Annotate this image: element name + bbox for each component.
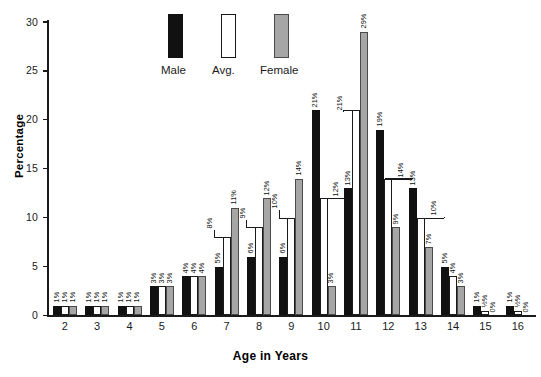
bar-male-age-10 (312, 110, 320, 315)
bar-male-age-2 (53, 306, 61, 316)
bar-value-label: 12% (262, 180, 269, 195)
bar-female-age-2 (69, 306, 77, 316)
bar-avg-age-2 (61, 306, 69, 316)
bar-value-label: 5% (214, 253, 221, 264)
bar-avg-age-8 (255, 227, 263, 315)
bar-female-age-10 (328, 286, 336, 315)
bar-male-age-8 (247, 257, 255, 316)
bar-value-label: 3% (456, 272, 463, 283)
bar-avg-age-6 (190, 276, 198, 315)
bar-value-label: 10% (271, 193, 278, 208)
label-leader-line (412, 178, 413, 179)
bar-male-age-13 (409, 188, 417, 315)
bar-avg-age-10 (320, 198, 328, 315)
label-leader-line (321, 198, 347, 199)
bar-value-label: 3% (149, 272, 156, 283)
bar-value-label: 1% (133, 292, 140, 303)
bar-value-label: 6% (279, 243, 286, 254)
label-leader-line (444, 217, 445, 218)
bar-female-age-12 (392, 227, 400, 315)
bar-value-label: 19% (376, 112, 383, 127)
bar-value-label: 1% (505, 292, 512, 303)
bar-avg-age-5 (158, 286, 166, 315)
bar-value-label: 14% (295, 161, 302, 176)
legend-swatch-avg (221, 14, 236, 58)
label-leader-line (343, 110, 359, 111)
bar-value-label: 4% (198, 263, 205, 274)
label-leader-line (385, 178, 411, 179)
bar-value-label: 11% (230, 191, 237, 205)
bar-value-label: 21% (335, 95, 342, 110)
label-leader-line (214, 230, 215, 237)
bar-female-age-3 (101, 306, 109, 316)
bar-value-label: 0% (521, 302, 528, 313)
bar-value-label: 8% (206, 217, 213, 228)
label-leader-line (246, 227, 262, 228)
bar-male-age-4 (118, 306, 126, 316)
bar-value-label: 29% (359, 14, 366, 29)
bar-value-label: 1% (60, 292, 67, 303)
bar-value-label: 6% (246, 243, 253, 254)
bar-female-age-8 (263, 198, 271, 315)
legend-label-avg: Avg. (212, 64, 235, 76)
bar-value-label: 3% (157, 272, 164, 283)
bar-male-age-11 (344, 188, 352, 315)
bar-avg-age-12 (384, 179, 392, 316)
bar-avg-age-3 (93, 306, 101, 316)
bar-value-label: 13% (343, 170, 350, 185)
bar-avg-age-4 (126, 306, 134, 316)
bar-female-age-11 (360, 32, 368, 316)
bar-female-age-13 (425, 247, 433, 315)
bar-avg-age-7 (223, 237, 231, 315)
bar-avg-age-11 (352, 110, 360, 315)
bar-value-label: 7% (424, 233, 431, 244)
bar-male-age-6 (182, 276, 190, 315)
bar-value-label: 0% (489, 302, 496, 313)
bar-value-label: ½% (513, 295, 520, 308)
label-leader-line (418, 218, 444, 219)
bar-value-label: 10% (429, 200, 436, 215)
bar-value-label: 12% (332, 181, 339, 196)
bar-female-age-5 (166, 286, 174, 315)
bar-value-label: 3% (327, 272, 334, 283)
legend-label-female: Female (260, 64, 298, 76)
legend-label-male: Male (161, 64, 186, 76)
bar-female-age-6 (198, 276, 206, 315)
bar-value-label: 3% (165, 272, 172, 283)
bar-male-age-12 (376, 130, 384, 316)
chart-legend: Male Avg. Female (168, 14, 308, 84)
bar-male-age-9 (279, 257, 287, 316)
bar-chart: 051015202530 2345678910111213141516 Perc… (0, 0, 541, 377)
bar-value-label: 9% (392, 214, 399, 225)
bar-value-label: 14% (397, 162, 404, 177)
label-leader-line (279, 210, 280, 218)
bar-value-label: 9% (238, 207, 245, 218)
bar-avg-age-13 (417, 218, 425, 316)
legend-swatch-female (274, 14, 289, 58)
bar-female-age-4 (134, 306, 142, 316)
bar-male-age-7 (215, 267, 223, 316)
bar-male-age-3 (85, 306, 93, 316)
bar-value-label: 1% (52, 292, 59, 303)
bar-male-age-5 (150, 286, 158, 315)
bar-female-age-9 (295, 179, 303, 316)
legend-swatch-male (168, 14, 183, 58)
bar-value-label: 21% (311, 92, 318, 107)
label-leader-line (214, 237, 230, 238)
label-leader-line (246, 220, 247, 227)
bar-value-label: 1% (101, 292, 108, 303)
bar-female-age-14 (457, 286, 465, 315)
bar-male-age-14 (441, 267, 449, 316)
bar-avg-age-9 (287, 218, 295, 316)
label-leader-line (279, 218, 295, 219)
bar-female-age-7 (231, 208, 239, 316)
bar-value-label: 1% (68, 292, 75, 303)
